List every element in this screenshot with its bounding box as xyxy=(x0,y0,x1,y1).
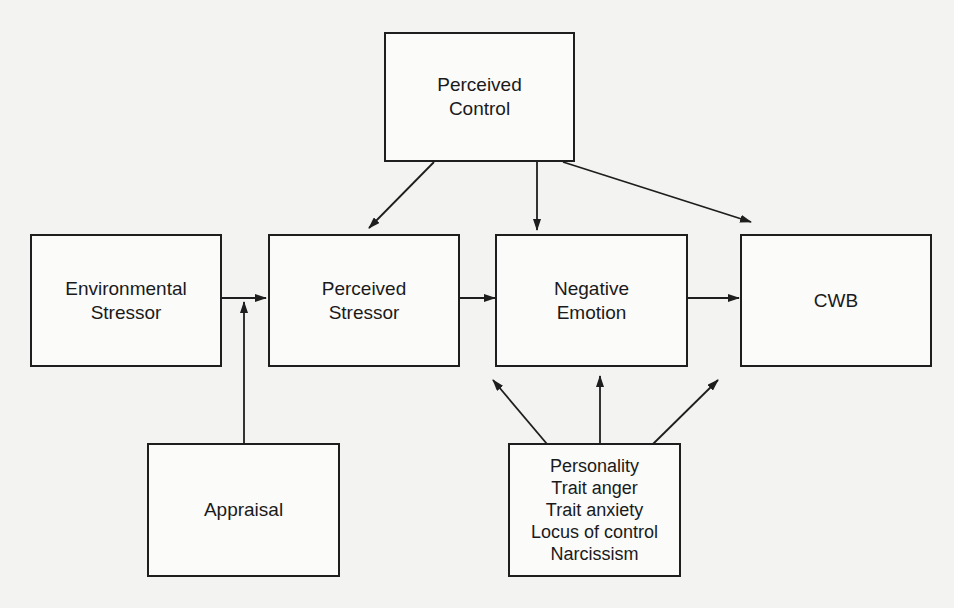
node-label-line: Emotion xyxy=(557,301,627,325)
node-environmental-stressor: Environmental Stressor xyxy=(30,234,222,367)
edge-personality-moderator-left xyxy=(493,380,547,444)
node-label-line: Personality xyxy=(550,455,639,477)
node-personality: Personality Trait anger Trait anxiety Lo… xyxy=(508,443,681,577)
node-label-line: Stressor xyxy=(91,301,162,325)
node-label-line: Trait anxiety xyxy=(546,499,643,521)
node-label-line: Locus of control xyxy=(531,521,658,543)
node-negative-emotion: Negative Emotion xyxy=(495,234,688,367)
node-label-line: Perceived xyxy=(437,73,522,97)
node-label-line: Appraisal xyxy=(204,498,283,522)
node-label-line: Negative xyxy=(554,277,629,301)
node-label-line: Narcissism xyxy=(551,543,639,565)
node-label-line: Trait anger xyxy=(551,477,637,499)
stressor-emotion-cwb-diagram: Perceived Control Environmental Stressor… xyxy=(0,0,954,608)
node-label-line: Stressor xyxy=(329,301,400,325)
node-cwb: CWB xyxy=(740,234,932,367)
node-appraisal: Appraisal xyxy=(147,443,340,577)
node-label-line: Perceived xyxy=(322,277,407,301)
node-label-line: Environmental xyxy=(65,277,186,301)
node-label-line: CWB xyxy=(814,289,858,313)
node-perceived-stressor: Perceived Stressor xyxy=(268,234,460,367)
edge-control-to-perceived-stressor xyxy=(369,162,434,228)
node-label-line: Control xyxy=(449,97,510,121)
edge-personality-moderator-right xyxy=(653,380,718,444)
node-perceived-control: Perceived Control xyxy=(384,32,575,162)
edge-control-to-cwb xyxy=(563,162,751,222)
